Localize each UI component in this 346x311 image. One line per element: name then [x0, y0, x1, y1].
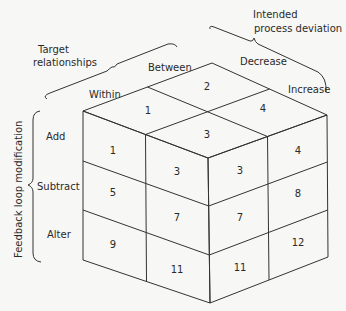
cell-right-add-2: 4	[295, 145, 301, 156]
cube-grid	[83, 87, 328, 282]
classification-cube-diagram: 1 2 3 4 1 3 5 7 9 11 3 4 7 8 11 12 Targe…	[0, 0, 346, 311]
level-between: Between	[148, 62, 192, 73]
cell-right-subtract-1: 7	[237, 212, 243, 223]
level-subtract: Subtract	[37, 181, 80, 192]
level-increase: Increase	[288, 84, 330, 95]
cell-left-alter-2: 11	[171, 264, 184, 275]
cell-left-subtract-2: 7	[174, 212, 180, 223]
level-add: Add	[46, 131, 65, 142]
cell-left-subtract-1: 5	[110, 187, 116, 198]
process-deviation-title-line2: process deviation	[254, 23, 342, 34]
cell-left-add-2: 3	[174, 166, 180, 177]
cell-left-add-1: 1	[110, 145, 116, 156]
cell-right-alter-1: 11	[234, 262, 247, 273]
cell-top-between-increase: 4	[260, 103, 266, 114]
cell-right-alter-2: 12	[292, 237, 305, 248]
target-relationships-title-line1: Target	[37, 44, 69, 55]
level-decrease: Decrease	[240, 56, 287, 67]
cell-left-alter-1: 9	[110, 239, 116, 250]
target-relationships-title-line2: relationships	[33, 57, 97, 68]
level-within: Within	[89, 89, 121, 100]
feedback-loop-title: Feedback loop modification	[13, 121, 24, 258]
cell-top-between-decrease: 2	[204, 81, 210, 92]
cell-right-add-1: 3	[237, 165, 243, 176]
process-deviation-title-line1: Intended	[253, 9, 298, 20]
cell-top-within-increase: 3	[204, 129, 210, 140]
level-alter: Alter	[47, 229, 72, 240]
cell-right-subtract-2: 8	[295, 188, 301, 199]
cell-top-within-decrease: 1	[145, 105, 151, 116]
